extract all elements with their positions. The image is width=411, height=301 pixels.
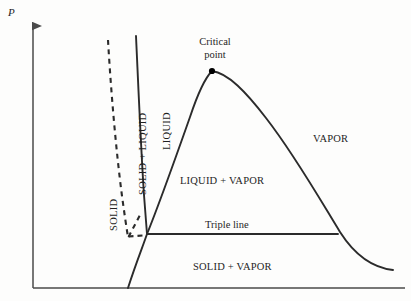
critical-point-marker bbox=[209, 68, 215, 74]
region-label-solid: SOLID bbox=[108, 199, 119, 231]
sublimation-curve bbox=[128, 234, 147, 288]
dome-left-branch bbox=[147, 71, 212, 234]
phase-diagram: P Critical point SOLID SOLID + LIQUID LI… bbox=[0, 0, 411, 301]
metastable-dashed-tie bbox=[129, 235, 148, 236]
region-label-liquid: LIQUID bbox=[161, 112, 172, 150]
metastable-dashed-v-branch bbox=[129, 214, 141, 237]
region-label-liquid-plus-vapor: LIQUID + VAPOR bbox=[180, 175, 264, 186]
dome-right-branch bbox=[212, 71, 393, 270]
critical-point-label-line1: Critical bbox=[186, 36, 244, 47]
region-label-solid-plus-vapor: SOLID + VAPOR bbox=[193, 261, 272, 272]
critical-point-label-line2: point bbox=[186, 49, 244, 60]
region-label-vapor: VAPOR bbox=[313, 133, 348, 144]
triple-line-label: Triple line bbox=[205, 219, 249, 230]
y-axis-label: P bbox=[8, 7, 15, 19]
region-label-solid-plus-liquid: SOLID + LIQUID bbox=[137, 113, 148, 195]
